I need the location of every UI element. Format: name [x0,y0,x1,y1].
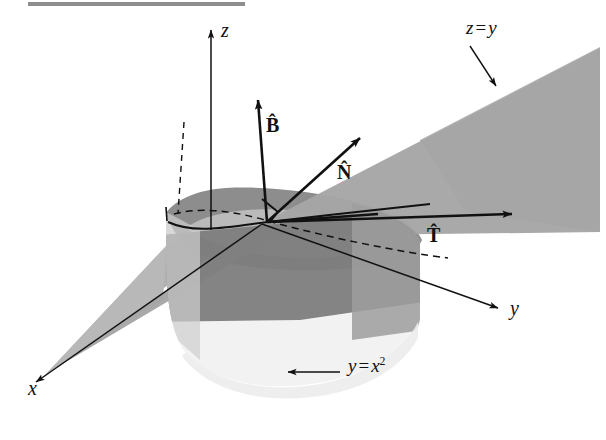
y-axis-label: y [510,298,519,318]
plane-equation-label: z=y [466,18,497,37]
cylinder-left-notch [166,207,167,221]
figure-canvas [0,0,606,440]
leader-z-equals-y [470,46,496,86]
cylinder-equation-exponent: 2 [380,355,386,368]
frenet-frame-figure: z y x B̂ N̂ T̂ z=y y=x2 [0,0,606,440]
cylinder-equation-operator: = [356,355,371,376]
cylinder-equation-rhs: x [371,355,379,376]
x-axis-label: x [28,378,37,398]
cylinder-equation-label: y=x2 [348,356,385,375]
vector-B-label: B̂ [266,115,279,135]
page-rule-bar [28,2,245,6]
cylinder-left-shadow [166,212,200,360]
vector-N-label: N̂ [337,162,351,182]
plane-equation-operator: = [473,17,488,38]
z-axis-label: z [221,20,229,40]
vector-T-label: T̂ [427,225,440,245]
plane-equation-rhs: y [488,17,496,38]
